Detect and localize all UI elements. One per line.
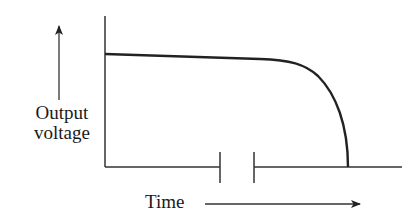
voltage-curve [105, 54, 348, 167]
y-axis-label-line1: Output [25, 103, 99, 123]
y-axis-label: Output voltage [25, 103, 99, 143]
x-axis-label: Time [145, 192, 184, 212]
y-axis-label-line2: voltage [25, 123, 99, 143]
